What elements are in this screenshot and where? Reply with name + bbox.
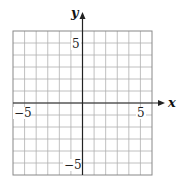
y-tick-label-pos5: 5 — [72, 37, 80, 51]
coordinate-plane: x y −5 5 5 −5 — [0, 0, 178, 187]
x-axis-label: x — [167, 95, 176, 110]
x-tick-label-pos5: 5 — [137, 106, 145, 120]
x-tick-label-neg5: −5 — [14, 106, 32, 120]
y-axis-arrow-icon — [80, 12, 86, 19]
x-axis-arrow-icon — [158, 100, 165, 106]
y-tick-label-neg5: −5 — [64, 158, 82, 172]
y-axis-label: y — [70, 5, 80, 20]
